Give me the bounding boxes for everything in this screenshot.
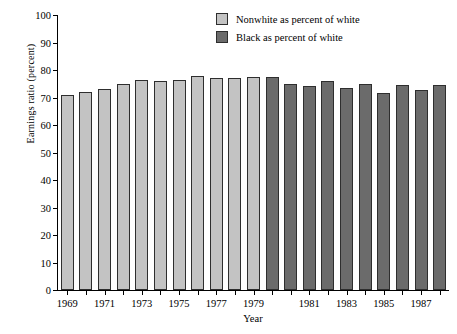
bar-1970-nonwhite: [79, 92, 92, 290]
x-axis-tick: [142, 290, 143, 295]
x-axis-tick: [421, 290, 422, 295]
legend-swatch-nonwhite-icon: [216, 13, 228, 25]
x-axis-tick-label: 1975: [169, 298, 190, 309]
x-axis-tick: [235, 290, 236, 295]
bar-1981-black: [303, 86, 316, 290]
x-axis-tick: [347, 290, 348, 295]
legend-label-black: Black as percent of white: [236, 32, 343, 43]
y-axis-tick: [53, 98, 58, 99]
y-axis-tick-label: 20: [41, 230, 52, 241]
y-axis-tick: [53, 235, 58, 236]
y-axis-tick: [53, 15, 58, 16]
legend-item-nonwhite: Nonwhite as percent of white: [216, 13, 360, 25]
x-axis-tick-label: 1979: [243, 298, 264, 309]
y-axis-tick: [53, 263, 58, 264]
y-axis-tick: [53, 180, 58, 181]
y-axis-tick-label: 30: [41, 202, 52, 213]
x-axis-tick: [179, 290, 180, 295]
legend-item-black: Black as percent of white: [216, 31, 360, 43]
bar-1984-black: [359, 84, 372, 290]
legend-swatch-black-icon: [216, 31, 228, 43]
x-axis-tick-label: 1985: [373, 298, 394, 309]
bar-1972-nonwhite: [117, 84, 130, 290]
y-axis-tick-label: 100: [35, 10, 51, 21]
x-axis-title: Year: [57, 313, 449, 324]
y-axis-tick-label: 0: [46, 285, 51, 296]
x-axis-tick: [216, 290, 217, 295]
x-axis-tick: [309, 290, 310, 295]
x-axis-tick-label: 1981: [299, 298, 320, 309]
y-axis-tick-label: 80: [41, 65, 52, 76]
x-axis-tick: [105, 290, 106, 295]
x-axis-tick-label: 1973: [131, 298, 152, 309]
bar-1969-nonwhite: [61, 95, 74, 290]
y-axis-tick-label: 60: [41, 120, 52, 131]
y-axis-title: Earnings ratio (percent): [25, 0, 36, 204]
plot-area: 0102030405060708090100196919711973197519…: [57, 15, 449, 291]
bar-1988-black: [433, 85, 446, 290]
y-axis-tick: [53, 43, 58, 44]
bar-1976-nonwhite: [191, 76, 204, 291]
chart-legend: Nonwhite as percent of white Black as pe…: [216, 13, 360, 49]
x-axis-tick-label: 1987: [411, 298, 432, 309]
y-axis-tick: [53, 153, 58, 154]
x-axis-tick: [254, 290, 255, 295]
bar-1982-black: [321, 81, 334, 290]
y-axis-tick-label: 90: [41, 37, 52, 48]
bar-1977-nonwhite: [210, 78, 223, 290]
y-axis-tick: [53, 208, 58, 209]
x-axis-tick: [328, 290, 329, 295]
bar-1978-nonwhite: [228, 78, 241, 290]
legend-label-nonwhite: Nonwhite as percent of white: [236, 14, 360, 25]
bar-1985-black: [377, 93, 390, 290]
bar-1975-nonwhite: [173, 80, 186, 290]
x-axis-tick: [440, 290, 441, 295]
earnings-ratio-bar-chart: Earnings ratio (percent) 010203040506070…: [0, 0, 457, 334]
bar-1986-black: [396, 85, 409, 290]
x-axis-tick: [272, 290, 273, 295]
y-axis-tick: [53, 70, 58, 71]
x-axis-tick: [67, 290, 68, 295]
x-axis-tick: [86, 290, 87, 295]
bar-1979-black: [266, 77, 279, 290]
y-axis-tick-label: 70: [41, 92, 52, 103]
y-axis-tick-label: 10: [41, 257, 52, 268]
x-axis-tick-label: 1971: [94, 298, 115, 309]
bar-1980-black: [284, 84, 297, 290]
bar-1979-nonwhite: [247, 77, 260, 290]
x-axis-tick: [160, 290, 161, 295]
x-axis-tick: [384, 290, 385, 295]
bar-1974-nonwhite: [154, 81, 167, 290]
x-axis-tick: [365, 290, 366, 295]
y-axis-tick: [53, 290, 58, 291]
x-axis-tick: [123, 290, 124, 295]
x-axis-tick: [198, 290, 199, 295]
bar-1973-nonwhite: [135, 80, 148, 290]
x-axis-tick-label: 1977: [206, 298, 227, 309]
y-axis-tick-label: 50: [41, 147, 52, 158]
bar-1983-black: [340, 88, 353, 290]
x-axis-tick-label: 1983: [336, 298, 357, 309]
bar-1987-black: [415, 90, 428, 290]
y-axis-tick: [53, 125, 58, 126]
y-axis-tick-label: 40: [41, 175, 52, 186]
x-axis-tick-label: 1969: [57, 298, 78, 309]
x-axis-tick: [291, 290, 292, 295]
x-axis-tick: [402, 290, 403, 295]
bar-1971-nonwhite: [98, 89, 111, 290]
